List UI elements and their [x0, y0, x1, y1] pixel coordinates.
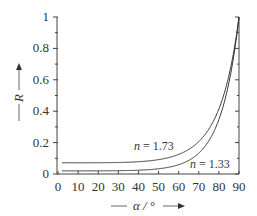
- reflectance-chart: 00.20.40.60.810102030405060708090n = 1.7…: [0, 0, 257, 216]
- y-tick-label: 0: [43, 166, 50, 181]
- x-tick-label: 80: [212, 179, 225, 194]
- x-tick-label: 0: [55, 179, 62, 194]
- y-axis-label: R: [11, 63, 26, 121]
- x-label-text: α / °: [133, 198, 155, 213]
- x-axis-label: α / °: [111, 198, 185, 213]
- y-tick-label: 0.2: [33, 135, 49, 150]
- labels: 00.20.40.60.810102030405060708090n = 1.7…: [11, 9, 246, 213]
- x-tick-label: 70: [192, 179, 205, 194]
- curve-label-n173: n = 1.73: [134, 139, 174, 153]
- x-tick-label: 40: [132, 179, 145, 194]
- x-tick-label: 90: [233, 179, 246, 194]
- x-tick-label: 20: [92, 179, 105, 194]
- x-tick-label: 60: [172, 179, 185, 194]
- x-tick-label: 30: [112, 179, 125, 194]
- x-tick-label: 50: [152, 179, 165, 194]
- y-tick-label: 1: [43, 9, 50, 24]
- y-tick-label: 0.6: [33, 72, 50, 87]
- y-tick-label: 0.4: [33, 103, 50, 118]
- y-tick-label: 0.8: [33, 40, 49, 55]
- right-arrow-icon: [178, 203, 185, 209]
- up-arrow-icon: [16, 63, 22, 70]
- x-tick-label: 10: [72, 179, 85, 194]
- curve-label-n133: n = 1.33: [190, 157, 230, 171]
- y-label-text: R: [11, 94, 26, 103]
